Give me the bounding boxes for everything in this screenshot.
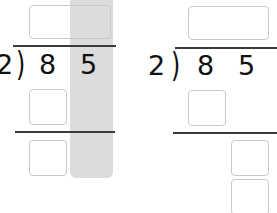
quotient-answer-box[interactable] <box>29 5 111 39</box>
subtract-answer-box[interactable] <box>188 90 226 126</box>
division-bar <box>175 47 277 49</box>
division-bar <box>13 45 116 47</box>
dividend-ones-digit: 5 <box>80 50 97 80</box>
divisor: 2 <box>0 50 13 80</box>
subtraction-line <box>173 132 277 134</box>
difference-answer-box[interactable] <box>231 140 269 176</box>
subtraction-line <box>15 131 115 133</box>
dividend-tens-digit: 8 <box>197 51 214 81</box>
subtract-answer-box[interactable] <box>29 89 67 125</box>
divisor: 2 <box>148 51 165 81</box>
quotient-answer-box[interactable] <box>188 6 269 40</box>
division-bracket: ) <box>171 47 180 83</box>
bring-down-answer-box[interactable] <box>231 179 269 213</box>
division-bracket: ) <box>16 46 25 82</box>
remainder-answer-box[interactable] <box>29 140 67 176</box>
dividend-ones-digit: 5 <box>238 51 255 81</box>
dividend-tens-digit: 8 <box>39 50 56 80</box>
